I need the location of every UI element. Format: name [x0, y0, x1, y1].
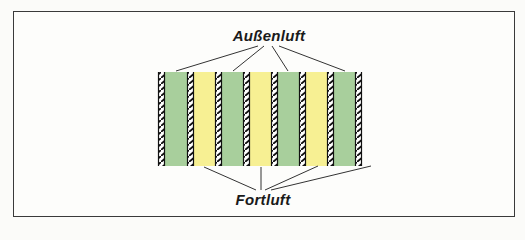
wall: [355, 72, 362, 166]
exhaust-air-channel: [250, 72, 271, 166]
outdoor-air-leader-lines: [176, 46, 345, 71]
wall: [243, 72, 250, 166]
wall: [271, 72, 278, 166]
outdoor-air-channel: [278, 72, 299, 166]
exhaust-air-label: Fortluft: [236, 191, 291, 208]
outdoor-air-channel: [165, 72, 187, 166]
outdoor-air-channel: [222, 72, 243, 166]
exhaust-air-channel: [194, 72, 215, 166]
exhaust-air-channel: [306, 72, 327, 166]
wall: [299, 72, 306, 166]
wall: [215, 72, 222, 166]
outdoor-air-label: Außenluft: [233, 27, 306, 44]
outdoor-air-channel: [334, 72, 355, 166]
wall: [187, 72, 194, 166]
wall: [158, 72, 165, 166]
wall: [327, 72, 334, 166]
exhaust-air-leader-lines: [204, 166, 371, 190]
